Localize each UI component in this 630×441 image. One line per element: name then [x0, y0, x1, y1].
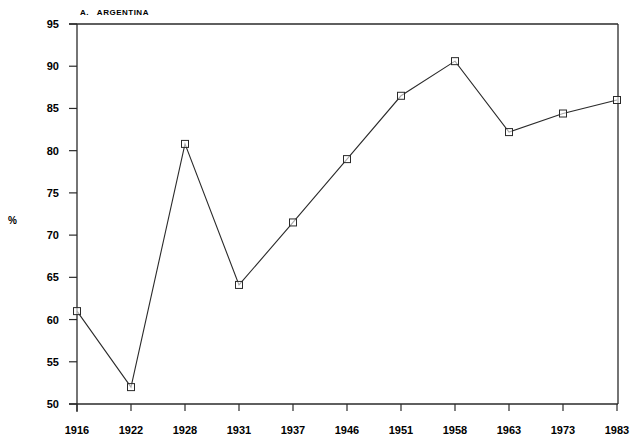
y-axis: 50556065707580859095: [47, 18, 77, 410]
x-tick-label: 1916: [65, 424, 89, 436]
square-marker: [74, 308, 81, 315]
square-marker: [182, 140, 189, 147]
x-tick-label: 1946: [335, 424, 359, 436]
chart-title: A. ARGENTINA: [80, 8, 149, 17]
x-axis: 1916192219281931193719461951195819631973…: [65, 404, 629, 436]
x-tick-label: 1922: [119, 424, 143, 436]
y-tick-label: 80: [47, 145, 59, 157]
square-marker: [560, 110, 567, 117]
x-tick-label: 1937: [281, 424, 305, 436]
x-tick-label: 1931: [227, 424, 251, 436]
square-marker: [344, 156, 351, 163]
data-series: [74, 58, 621, 391]
x-tick-label: 1928: [173, 424, 197, 436]
square-marker: [506, 129, 513, 136]
square-marker: [398, 92, 405, 99]
plot-frame: [69, 24, 618, 412]
x-tick-label: 1951: [389, 424, 413, 436]
x-tick-label: 1963: [497, 424, 521, 436]
square-marker: [614, 97, 621, 104]
y-tick-label: 60: [47, 314, 59, 326]
square-marker: [290, 219, 297, 226]
square-marker: [128, 384, 135, 391]
square-marker: [236, 281, 243, 288]
y-tick-label: 95: [47, 18, 59, 30]
y-tick-label: 55: [47, 356, 59, 368]
x-tick-label: 1958: [443, 424, 467, 436]
square-marker: [452, 58, 459, 65]
series-line: [77, 61, 617, 387]
x-tick-label: 1983: [605, 424, 629, 436]
y-tick-label: 75: [47, 187, 59, 199]
y-tick-label: 90: [47, 60, 59, 72]
x-tick-label: 1973: [551, 424, 575, 436]
line-chart: A. ARGENTINA % 50556065707580859095 1916…: [0, 0, 630, 441]
y-tick-label: 50: [47, 398, 59, 410]
y-axis-label: %: [8, 215, 17, 226]
y-tick-label: 85: [47, 102, 59, 114]
y-tick-label: 65: [47, 271, 59, 283]
y-tick-label: 70: [47, 229, 59, 241]
